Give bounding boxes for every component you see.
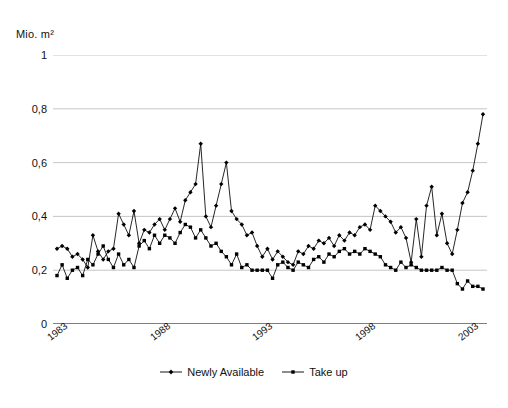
x-axis-year-label: 2003	[456, 320, 480, 342]
legend-item[interactable]: Newly Available	[160, 366, 264, 378]
chart-legend: Newly AvailableTake up	[0, 366, 508, 378]
legend-marker-icon	[282, 367, 304, 377]
legend-item[interactable]: Take up	[282, 366, 348, 378]
legend-marker-icon	[160, 367, 182, 377]
legend-label: Take up	[309, 366, 348, 378]
x-axis-tick-labels: 19831988199319982003	[0, 0, 508, 408]
x-axis-year-label: 1988	[148, 320, 172, 342]
x-axis-year-label: 1998	[353, 320, 377, 342]
chart-container: Mio. m² 00,20,40,60,81 19831988199319982…	[0, 0, 508, 408]
x-axis-year-label: 1993	[250, 320, 274, 342]
x-axis-year-label: 1983	[45, 320, 69, 342]
legend-label: Newly Available	[187, 366, 264, 378]
